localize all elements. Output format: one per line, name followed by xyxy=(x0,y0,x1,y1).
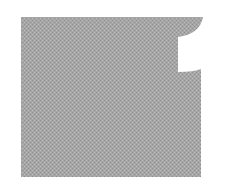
figure-canvas xyxy=(0,0,229,189)
notched-block xyxy=(21,17,203,177)
halftone-shape xyxy=(0,0,229,189)
